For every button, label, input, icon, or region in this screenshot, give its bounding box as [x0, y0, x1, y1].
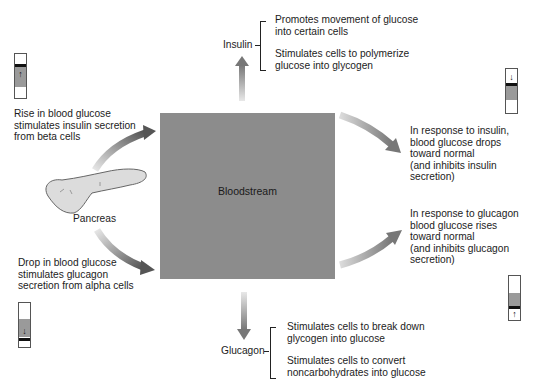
- right-bottom-description: In response to glucagon blood glucose ri…: [410, 208, 519, 266]
- arrow-blood-to-glucagon: [237, 292, 251, 340]
- glucagon-label: Glucagon: [221, 345, 265, 357]
- text-line: noncarbohydrates into glucose: [287, 367, 426, 379]
- text-line: secretion): [410, 254, 519, 266]
- glucose-indicator-right-bottom: ↑: [508, 275, 521, 321]
- glucagon-bracket: [270, 327, 276, 379]
- text-line: In response to insulin,: [410, 125, 509, 137]
- insulin-effect-2: Stimulates cells to polymerize glucose i…: [275, 48, 409, 71]
- bloodstream-box: Bloodstream: [160, 113, 335, 279]
- text-line: Stimulates cells to polymerize: [275, 48, 409, 60]
- text-line: Stimulates cells to convert: [287, 355, 426, 367]
- text-line: glycogen into glucose: [287, 333, 425, 345]
- left-bottom-description: Drop in blood glucose stimulates glucago…: [18, 257, 134, 292]
- glucose-indicator-right-top: ↓: [505, 68, 518, 114]
- indicator-fill: [506, 85, 517, 100]
- text-line: (and inhibits insulin: [410, 160, 509, 172]
- arrow-up-icon: ↑: [509, 309, 520, 319]
- text-line: Rise in blood glucose: [14, 108, 136, 120]
- arrow-blood-to-right-top: [340, 115, 401, 153]
- right-top-description: In response to insulin, blood glucose dr…: [410, 125, 509, 183]
- indicator-level-line: [19, 338, 30, 341]
- text-line: secretion from alpha cells: [18, 280, 134, 292]
- glucagon-effect-1: Stimulates cells to break down glycogen …: [287, 321, 425, 344]
- text-line: stimulates insulin secretion: [14, 120, 136, 132]
- bloodstream-label: Bloodstream: [160, 185, 335, 197]
- text-line: toward normal: [410, 231, 519, 243]
- arrow-up-icon: ↑: [15, 69, 26, 79]
- text-line: Promotes movement of glucose: [275, 14, 418, 26]
- text-line: into certain cells: [275, 26, 418, 38]
- arrow-blood-to-insulin: [235, 56, 249, 101]
- arrow-down-icon: ↓: [19, 326, 30, 336]
- glucose-indicator-left-bottom: ↓: [18, 302, 31, 348]
- text-line: Stimulates cells to break down: [287, 321, 425, 333]
- text-line: blood glucose drops: [410, 137, 509, 149]
- text-line: stimulates glucagon: [18, 269, 134, 281]
- glucagon-effect-2: Stimulates cells to convert noncarbohydr…: [287, 355, 426, 378]
- insulin-label: Insulin: [223, 39, 252, 51]
- indicator-fill: [509, 293, 520, 306]
- insulin-bracket: [260, 21, 266, 71]
- glucagon-connector: [264, 351, 269, 352]
- glucose-indicator-left-top: ↑: [14, 53, 27, 99]
- insulin-effect-1: Promotes movement of glucose into certai…: [275, 14, 418, 37]
- text-line: from beta cells: [14, 131, 136, 143]
- left-top-description: Rise in blood glucose stimulates insulin…: [14, 108, 136, 143]
- text-line: Drop in blood glucose: [18, 257, 134, 269]
- arrow-down-icon: ↓: [506, 72, 517, 82]
- text-line: toward normal: [410, 148, 509, 160]
- text-line: (and inhibits glucagon: [410, 243, 519, 255]
- indicator-level-line: [506, 83, 517, 86]
- indicator-level-line: [15, 64, 26, 67]
- text-line: In response to glucagon: [410, 208, 519, 220]
- text-line: blood glucose rises: [410, 220, 519, 232]
- pancreas-label: Pancreas: [73, 213, 116, 225]
- text-line: secretion): [410, 171, 509, 183]
- text-line: glucose into glycogen: [275, 60, 409, 72]
- arrow-blood-to-right-bottom: [340, 230, 402, 265]
